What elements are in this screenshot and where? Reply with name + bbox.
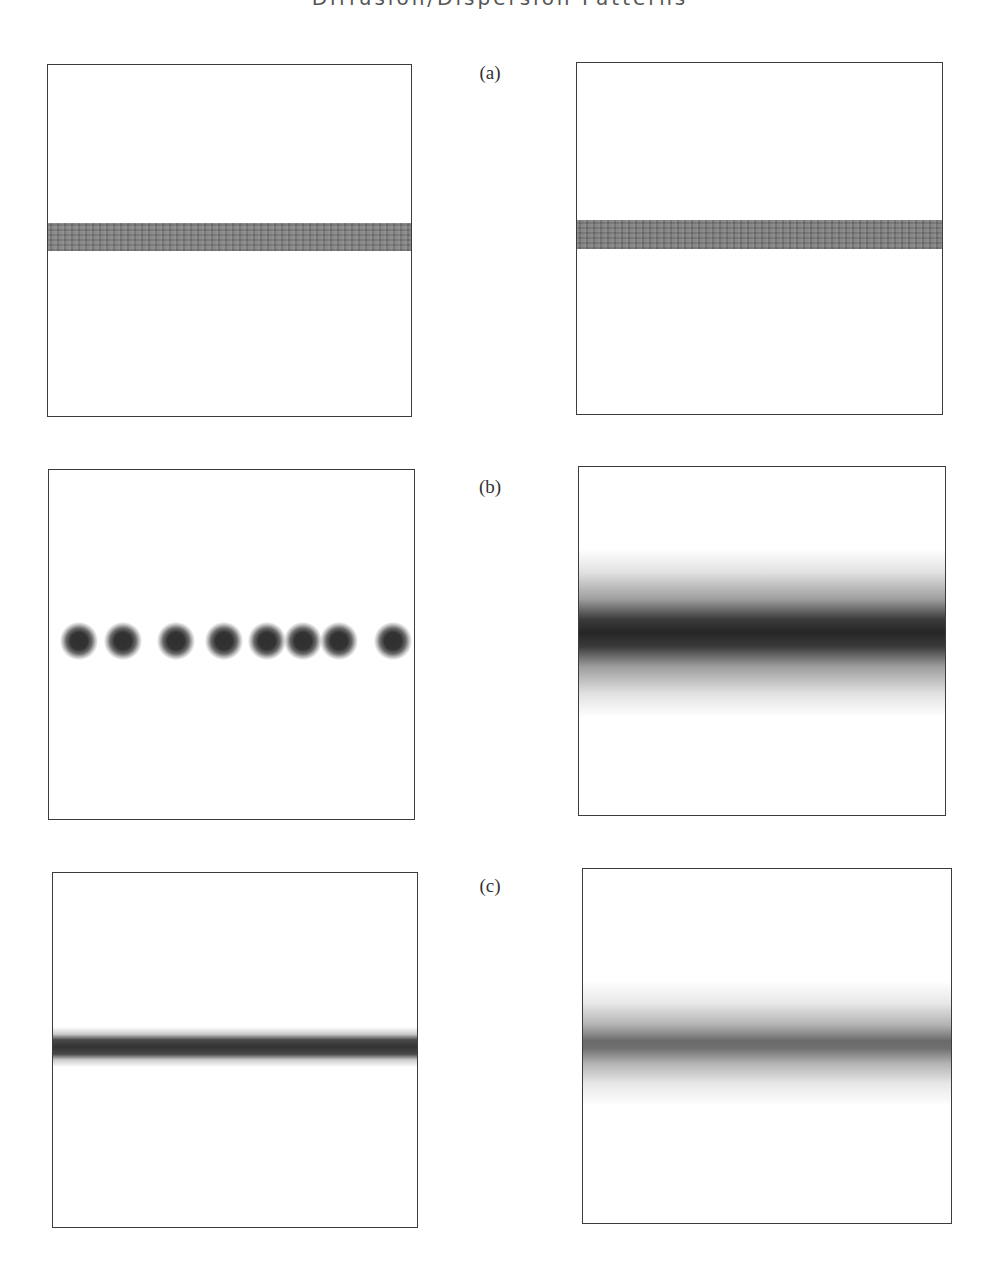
band-b-right (579, 549, 945, 717)
label-c: (c) (479, 875, 500, 897)
blob-3 (157, 622, 195, 660)
panel-b-left (48, 469, 415, 820)
band-c-right (583, 981, 951, 1106)
panel-a-left (47, 64, 412, 417)
panel-a-right (576, 62, 943, 415)
blob-5 (248, 622, 286, 660)
blob-2 (104, 622, 142, 660)
band-c-left (53, 1027, 417, 1067)
figure-title-clipped: Diffusion/Dispersion Patterns (270, 0, 730, 8)
band-a-left (48, 223, 411, 251)
blob-1 (60, 622, 98, 660)
panel-c-left (52, 872, 418, 1228)
panel-c-right (582, 868, 952, 1224)
blob-6 (284, 622, 322, 660)
label-a: (a) (479, 62, 500, 84)
band-a-right (577, 220, 942, 249)
blob-8 (374, 622, 412, 660)
label-b: (b) (479, 476, 501, 498)
panel-b-right (578, 466, 946, 816)
blob-7 (320, 622, 358, 660)
blob-4 (205, 622, 243, 660)
